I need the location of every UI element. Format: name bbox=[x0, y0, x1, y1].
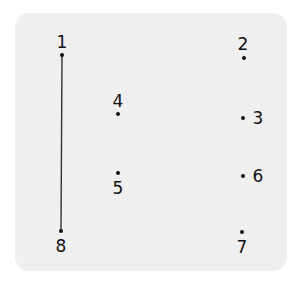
connecting-line-1-to-8 bbox=[0, 0, 299, 284]
dot-label-1: 1 bbox=[57, 34, 68, 51]
dot-label-4: 4 bbox=[113, 93, 124, 110]
dot-2[interactable] bbox=[242, 56, 246, 60]
dot-label-5: 5 bbox=[113, 180, 124, 197]
dot-7[interactable] bbox=[240, 230, 244, 234]
dot-label-7: 7 bbox=[237, 239, 248, 256]
dot-label-3: 3 bbox=[253, 110, 264, 127]
dot-5[interactable] bbox=[116, 171, 120, 175]
dot-3[interactable] bbox=[241, 116, 245, 120]
dot-6[interactable] bbox=[241, 174, 245, 178]
dot-4[interactable] bbox=[116, 112, 120, 116]
dot-1[interactable] bbox=[60, 53, 64, 57]
dot-puzzle-area[interactable]: 1 2 3 4 5 6 7 8 bbox=[0, 0, 299, 284]
dot-8[interactable] bbox=[59, 229, 63, 233]
dot-label-8: 8 bbox=[56, 238, 67, 255]
dot-label-6: 6 bbox=[253, 168, 264, 185]
dot-label-2: 2 bbox=[238, 36, 249, 53]
